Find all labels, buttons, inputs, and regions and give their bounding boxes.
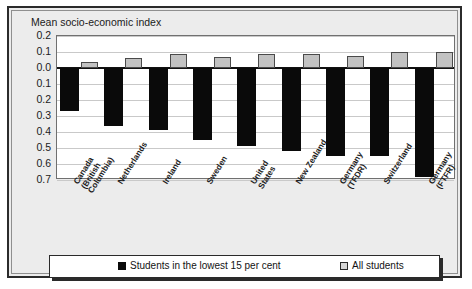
y-axis-tick: 0.1 (27, 78, 51, 88)
legend-label: Students in the lowest 15 per cent (130, 260, 281, 271)
legend-label: All students (352, 260, 404, 271)
black-square-icon (118, 262, 126, 270)
chart-legend: Students in the lowest 15 per centAll st… (49, 255, 440, 278)
bar-all-students (303, 54, 320, 68)
bar-all-students (81, 62, 98, 68)
y-axis-tick: 0.7 (27, 174, 51, 184)
y-axis-tick: 0.0 (27, 62, 51, 72)
bar-lowest-15-percent (326, 68, 345, 156)
bar-lowest-15-percent (282, 68, 301, 151)
bar-lowest-15-percent (60, 68, 79, 111)
legend-item[interactable]: All students (340, 260, 404, 271)
bar-all-students (347, 56, 364, 68)
y-axis-tick: 0.5 (27, 142, 51, 152)
chart-figure: Mean socio-economic index 0.20.10.00.10.… (7, 6, 462, 278)
bar-all-students (214, 57, 231, 68)
bar-all-students (258, 54, 275, 68)
y-axis-tick: 0.6 (27, 158, 51, 168)
bar-lowest-15-percent (193, 68, 212, 140)
gridline (57, 36, 454, 37)
y-axis-tick: 0.2 (27, 30, 51, 40)
y-axis-tick: 0.3 (27, 110, 51, 120)
bar-all-students (125, 58, 142, 68)
bar-all-students (170, 54, 187, 68)
bar-all-students (391, 52, 408, 68)
bar-lowest-15-percent (149, 68, 168, 130)
legend-item[interactable]: Students in the lowest 15 per cent (118, 260, 281, 271)
y-axis-tick: 0.1 (27, 46, 51, 56)
y-axis-tick: 0.2 (27, 94, 51, 104)
page-title: Mean socio-economic index (31, 16, 161, 28)
gridline (57, 148, 454, 149)
y-axis-tick: 0.4 (27, 126, 51, 136)
bar-lowest-15-percent (237, 68, 256, 146)
bar-lowest-15-percent (415, 68, 434, 177)
bar-lowest-15-percent (370, 68, 389, 156)
bar-lowest-15-percent (104, 68, 123, 126)
x-axis-category-labels: Canada (British Columbia)NetherlandsIrel… (56, 181, 455, 249)
grey-square-icon (340, 262, 348, 270)
bar-all-students (436, 52, 453, 68)
